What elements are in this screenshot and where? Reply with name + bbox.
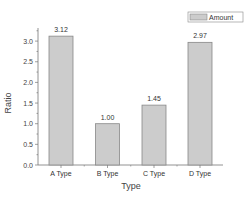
x-axis-title: Type	[121, 181, 141, 191]
y-axis-title: Ratio	[3, 92, 13, 113]
bar-b-type	[96, 124, 120, 165]
legend-label: Amount	[209, 14, 233, 21]
bar-chart: 0.00.51.01.52.02.53.0 A TypeB TypeC Type…	[0, 0, 245, 200]
legend: Amount	[188, 12, 243, 22]
y-axis: 0.00.51.01.52.02.53.0	[23, 28, 38, 169]
legend-swatch	[190, 14, 207, 20]
y-tick-label: 2.5	[23, 58, 33, 65]
x-tick-label: A Type	[50, 170, 71, 178]
bar-value-label: 3.12	[54, 26, 68, 33]
x-tick-label: D Type	[189, 170, 211, 178]
y-tick-label: 1.5	[23, 100, 33, 107]
bar-value-label: 1.45	[147, 95, 161, 102]
x-axis: A TypeB TypeC TypeD Type	[38, 165, 223, 178]
bars: 3.121.001.452.97	[49, 26, 212, 165]
y-tick-label: 2.0	[23, 79, 33, 86]
y-tick-label: 1.0	[23, 120, 33, 127]
bar-value-label: 2.97	[193, 32, 207, 39]
y-tick-label: 0.0	[23, 162, 33, 169]
bar-c-type	[142, 105, 166, 165]
y-tick-label: 0.5	[23, 141, 33, 148]
bar-d-type	[188, 42, 212, 165]
bar-value-label: 1.00	[101, 114, 115, 121]
bar-a-type	[49, 36, 73, 165]
x-tick-label: C Type	[143, 170, 165, 178]
y-tick-label: 3.0	[23, 38, 33, 45]
x-tick-label: B Type	[97, 170, 119, 178]
